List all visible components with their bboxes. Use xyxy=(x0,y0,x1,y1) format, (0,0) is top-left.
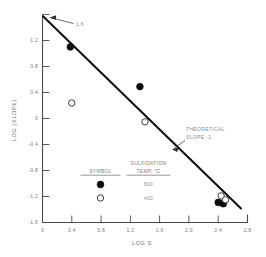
legend-header-symbol: SYMBOL xyxy=(89,168,112,174)
series-400-points xyxy=(69,100,229,203)
y-tick-label: -0.8 xyxy=(28,167,38,173)
y-axis-max-label: 1.6 xyxy=(76,21,84,27)
y-axis-tick-labels: 1.2 0.8 0.4 0 -0.4 -0.8 -1.2 -1.6 xyxy=(28,37,38,225)
x-axis-title: LOG S xyxy=(132,240,152,246)
x-tick-label: 1.6 xyxy=(156,227,164,233)
chart-figure: 1.2 0.8 0.4 0 -0.4 -0.8 -1.2 -1.6 0 0.4 … xyxy=(0,0,266,257)
chart-legend: SYMBOL SULFIDATION TEMP, °C 600 400 xyxy=(81,160,171,201)
data-point-filled xyxy=(137,83,144,90)
x-axis-tick-labels: 0 0.4 0.8 1.2 1.6 2.0 2.4 2.8 xyxy=(41,227,251,233)
data-point-filled xyxy=(67,44,74,51)
x-tick-label: 0.8 xyxy=(97,227,105,233)
scatter-plot: 1.2 0.8 0.4 0 -0.4 -0.8 -1.2 -1.6 0 0.4 … xyxy=(0,0,266,257)
x-tick-label: 0 xyxy=(41,227,44,233)
y-axis-title: LOG (SLOPE) xyxy=(11,99,17,141)
data-point-open xyxy=(222,197,228,203)
legend-header-temp-line1: SULFIDATION xyxy=(131,160,167,166)
annotation-line-2: SLOPE -1 xyxy=(186,134,211,140)
x-tick-label: 1.2 xyxy=(127,227,135,233)
x-tick-label: 2.4 xyxy=(214,227,222,233)
theoretical-slope-annotation: THEORETICAL SLOPE -1 xyxy=(173,126,225,152)
y-tick-label: 0.8 xyxy=(30,63,38,69)
y-tick-label: 0 xyxy=(35,115,38,121)
legend-value-600: 600 xyxy=(144,182,153,187)
annotation-line-1: THEORETICAL xyxy=(186,126,225,132)
data-point-open xyxy=(142,119,148,125)
legend-value-400: 400 xyxy=(144,196,153,201)
x-tick-label: 2.8 xyxy=(244,227,252,233)
x-axis-ticks xyxy=(43,216,248,223)
y-tick-label: -0.4 xyxy=(28,141,38,147)
legend-header-temp-line2: TEMP, °C xyxy=(136,168,160,174)
annotation-arrowhead-icon xyxy=(173,147,179,152)
legend-symbol-open-circle-icon xyxy=(97,195,103,201)
legend-symbol-filled-circle-icon xyxy=(97,181,104,188)
y-tick-label: -1.2 xyxy=(28,193,38,199)
x-tick-label: 0.4 xyxy=(68,227,76,233)
y-tick-label: 0.4 xyxy=(30,89,38,95)
corner-arrowhead-icon xyxy=(50,15,56,20)
data-point-open xyxy=(69,100,75,106)
y-tick-label: 1.2 xyxy=(30,37,38,43)
y-axis-ticks xyxy=(43,15,50,223)
corner-callout: 1.6 xyxy=(50,15,84,26)
x-tick-label: 2.0 xyxy=(185,227,193,233)
y-tick-label: -1.6 xyxy=(28,219,38,225)
